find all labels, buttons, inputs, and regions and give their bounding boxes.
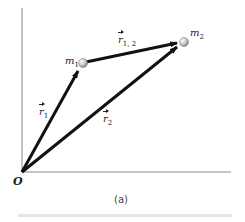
mass-m1 xyxy=(79,59,88,68)
label-m1: m1 xyxy=(65,56,79,66)
label-r1: r1 xyxy=(39,107,48,117)
mass-m2 xyxy=(180,38,189,47)
divider xyxy=(18,214,232,217)
origin-label: O xyxy=(13,176,23,187)
vector-r1 xyxy=(22,71,78,172)
label-r12: r1, 2 xyxy=(118,35,136,45)
figure-caption: (a) xyxy=(114,194,128,205)
vector-diagram: m1 m2 r1 r2 r1, 2 O (a) xyxy=(0,0,245,222)
label-r2: r2 xyxy=(103,114,112,124)
label-m2: m2 xyxy=(190,28,204,38)
